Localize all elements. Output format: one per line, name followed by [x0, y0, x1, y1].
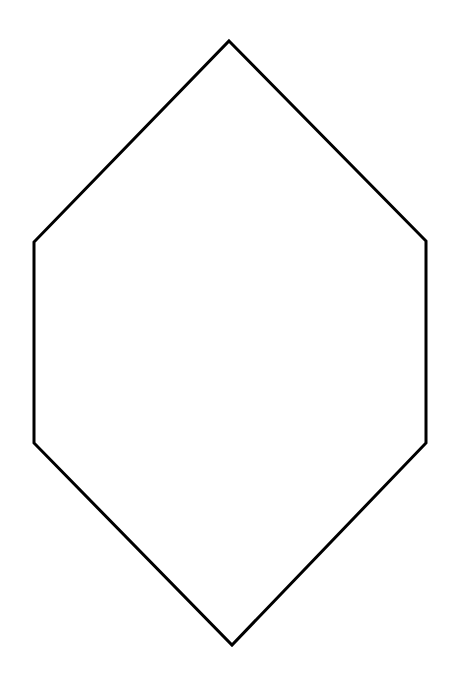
diagram-canvas — [0, 0, 455, 682]
diagram-svg — [0, 0, 455, 682]
hexagon-shape — [34, 41, 426, 645]
